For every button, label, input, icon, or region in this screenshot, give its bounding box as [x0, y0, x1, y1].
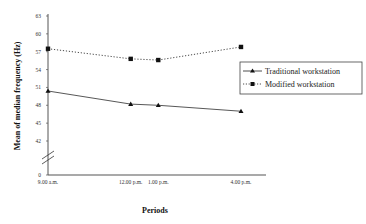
x-tick-label: 4.00 p.m.: [231, 179, 252, 185]
x-tick-label: 12.00 p.m.: [119, 179, 143, 185]
series-line-1: [48, 47, 241, 60]
series-line-0: [48, 91, 241, 111]
square-marker-icon: [239, 45, 243, 49]
y-tick-label: 60: [36, 31, 42, 37]
square-marker-icon: [129, 57, 133, 61]
legend-label-traditional: Traditional workstation: [265, 67, 340, 76]
legend-label-modified: Modified workstation: [265, 80, 335, 89]
y-axis-title: Mean of median frequency (Hz): [13, 41, 22, 150]
legend: Traditional workstation Modified worksta…: [240, 62, 362, 94]
y-tick-label: 51: [36, 84, 42, 90]
square-marker-icon: [46, 47, 50, 51]
y-tick-label: 45: [36, 120, 42, 126]
line-chart: Mean of median frequency (Hz) 0424548515…: [0, 0, 366, 224]
y-tick-label: 0: [38, 172, 41, 178]
square-marker-icon: [156, 58, 160, 62]
x-axis-title: Periods: [142, 206, 168, 215]
y-tick-label: 63: [36, 13, 42, 19]
y-tick-label: 42: [36, 138, 42, 144]
y-tick-label: 48: [36, 102, 42, 108]
square-marker-icon: [251, 82, 255, 86]
x-tick-label: 9.00 a.m.: [38, 179, 59, 185]
x-ticks: 9.00 a.m.12.00 p.m.1.00 p.m.4.00 p.m.: [38, 179, 252, 185]
y-ticks: 04245485154576063: [36, 13, 49, 178]
triangle-marker-icon: [46, 88, 51, 92]
y-tick-label: 54: [36, 67, 42, 73]
x-tick-label: 1.00 p.m.: [148, 179, 169, 185]
y-tick-label: 57: [36, 49, 42, 55]
series-group: [46, 45, 244, 113]
